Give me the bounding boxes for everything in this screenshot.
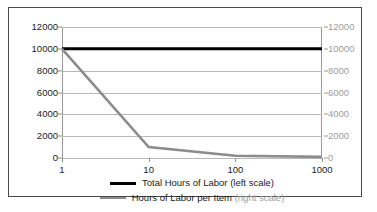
legend-swatch-icon	[100, 197, 126, 200]
x-axis-tick-mark	[62, 158, 63, 162]
y-axis-left-tick-label: 8000	[10, 66, 58, 76]
y-axis-right: 120001000080006000400020000	[328, 27, 377, 158]
x-axis-tick-label: 100	[227, 165, 243, 175]
x-axis-tick-label: 10	[143, 165, 154, 175]
x-axis-tick-label: 1	[59, 165, 64, 175]
y-axis-right-tick-label: 0	[328, 153, 376, 163]
series-line-2	[62, 49, 322, 157]
legend-label: Total Hours of Labor (left scale)	[142, 178, 274, 188]
y-axis-right-tick-label: 8000	[328, 66, 376, 76]
y-axis-right-tick-mark	[324, 92, 328, 93]
y-axis-left-tick-label: 12000	[10, 22, 58, 32]
legend-label: Hours of Labor per Item (right scale)	[132, 193, 285, 203]
y-axis-left-tick-label: 4000	[10, 110, 58, 120]
x-axis-tick-label: 1000	[311, 165, 332, 175]
y-axis-right-tick-label: 2000	[328, 131, 376, 141]
x-axis-tick-mark	[235, 158, 236, 162]
y-axis-right-tick-label: 4000	[328, 110, 376, 120]
x-axis-tick-mark	[149, 158, 150, 162]
chart-legend: Total Hours of Labor (left scale)Hours o…	[62, 176, 322, 206]
y-axis-left-tick-label: 2000	[10, 131, 58, 141]
legend-item[interactable]: Hours of Labor per Item (right scale)	[62, 191, 322, 205]
x-axis-tick-mark	[322, 158, 323, 162]
legend-scale-note: (left scale)	[230, 177, 274, 188]
y-axis-right-tick-label: 12000	[328, 22, 376, 32]
legend-scale-note: (right scale)	[235, 192, 285, 203]
y-axis-right-tick-mark	[324, 136, 328, 137]
series-lines	[62, 27, 322, 158]
x-axis: 1101001000	[62, 158, 322, 176]
y-axis-left-tick-label: 0	[10, 153, 58, 163]
y-axis-right-tick-mark	[324, 70, 328, 71]
y-axis-right-tick-mark	[324, 48, 328, 49]
y-axis-left: 120001000080006000400020000	[9, 27, 58, 158]
legend-item[interactable]: Total Hours of Labor (left scale)	[62, 176, 322, 190]
y-axis-right-tick-label: 6000	[328, 88, 376, 98]
y-axis-right-tick-mark	[324, 27, 328, 28]
plot-area	[62, 27, 322, 158]
chart-figure: 120001000080006000400020000 120001000080…	[0, 0, 377, 212]
chart-frame-border: 120001000080006000400020000 120001000080…	[8, 7, 362, 197]
legend-swatch-icon	[110, 182, 136, 185]
y-axis-left-tick-label: 6000	[10, 88, 58, 98]
y-axis-right-tick-mark	[324, 158, 328, 159]
y-axis-right-tick-mark	[324, 114, 328, 115]
y-axis-right-tick-label: 10000	[328, 44, 376, 54]
y-axis-left-tick-label: 10000	[10, 44, 58, 54]
